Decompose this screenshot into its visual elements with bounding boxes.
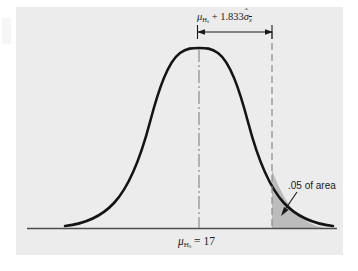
- figure-root: μH0 + 1.833ˆσx μH0 = 17 .05 of area: [0, 0, 358, 271]
- sigma-subscript: x: [249, 16, 252, 23]
- dimension-bracket: [197, 25, 273, 39]
- hat-accent: ˆ: [245, 9, 248, 17]
- coefficient-value: 1.833: [220, 11, 244, 22]
- mean-value: 17: [203, 235, 215, 247]
- plus-operator: +: [212, 11, 218, 22]
- mu-subscript-digit: 0: [207, 19, 209, 24]
- mu-subscript: H0: [202, 16, 209, 23]
- critical-value-label: μH0 + 1.833ˆσx: [197, 12, 252, 24]
- overbar-accent: [249, 16, 252, 17]
- axis-center-label: μH0 = 17: [178, 236, 215, 249]
- x-bar-group: x: [249, 17, 252, 24]
- axis-mu-subscript: H0: [184, 241, 191, 249]
- axis-mu-subscript-digit: 0: [189, 244, 191, 249]
- tail-area-label: .05 of area: [288, 181, 336, 191]
- equals-sign: =: [194, 235, 201, 247]
- distribution-plot: [0, 0, 358, 271]
